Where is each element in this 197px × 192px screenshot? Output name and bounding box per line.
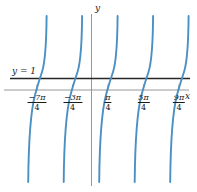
y-axis-label: y: [95, 4, 100, 13]
x-tick-label: −7π 4: [27, 94, 46, 112]
x-tick-denominator: 4: [173, 103, 185, 112]
x-tick-label: −3π 4: [63, 94, 82, 112]
x-tick-numerator: 9π: [173, 94, 185, 103]
x-tick-denominator: 4: [27, 103, 46, 112]
x-tick-denominator: 4: [137, 103, 149, 112]
x-tick-numerator: −3π: [63, 94, 82, 103]
level-line-label: y = 1: [12, 67, 36, 76]
x-tick-denominator: 4: [63, 103, 82, 112]
x-tick-label: 9π 4: [173, 94, 185, 112]
tangent-function-graph: y x y = 1 −7π 4 −3π 4 π 4 5π 4 9π 4: [0, 0, 197, 192]
x-tick-numerator: 5π: [137, 94, 149, 103]
x-tick-numerator: π: [104, 94, 111, 103]
x-tick-label: 5π 4: [137, 94, 149, 112]
x-tick-denominator: 4: [104, 103, 111, 112]
x-tick-numerator: −7π: [27, 94, 46, 103]
x-tick-label: π 4: [104, 94, 111, 112]
x-axis-label: x: [185, 92, 190, 101]
